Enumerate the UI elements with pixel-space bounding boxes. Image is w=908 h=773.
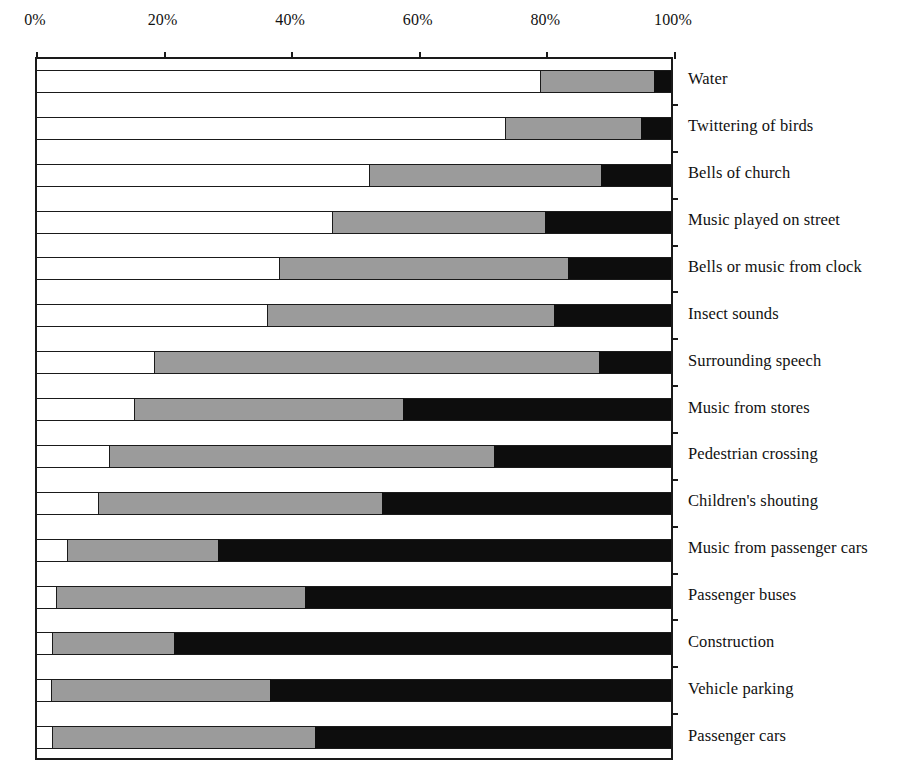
bar-segment-gray [56,586,305,609]
bar-segment-white [37,632,52,655]
y-axis-tick-mark [671,198,678,200]
y-axis-tick-mark [671,479,678,481]
bar-segment-gray [51,679,270,702]
category-label: Pedestrian crossing [688,444,818,464]
bar-segment-gray [67,539,218,562]
bar-segment-black [545,211,671,234]
bar-segment-gray [109,445,494,468]
bar-segment-gray [52,726,314,749]
bar-segment-black [382,492,671,515]
x-axis-tick-mark [546,52,548,59]
bar-row [37,304,671,327]
stacked-bar-chart: 0%20%40%60%80%100% WaterTwittering of bi… [0,0,908,773]
category-label: Children's shouting [688,491,818,511]
x-axis-tick-label-group: 0%20%40%60%80%100% [0,0,908,40]
bar-segment-gray [332,211,546,234]
bar-segment-gray [540,70,653,93]
x-axis-tick-label: 0% [24,11,46,29]
x-axis-tick-label: 100% [654,11,692,29]
bar-segment-gray [154,351,599,374]
bar-segment-white [37,211,332,234]
bar-segment-black [270,679,671,702]
bar-segment-white [37,492,98,515]
bar-segment-black [641,117,671,140]
bar-segment-black [568,257,671,280]
category-label: Passenger buses [688,585,796,605]
bar-segment-gray [279,257,568,280]
bar-segment-white [37,70,540,93]
bar-segment-black [494,445,671,468]
category-label: Twittering of birds [688,116,813,136]
x-axis-tick-mark [36,52,38,59]
x-axis-tick-label: 20% [148,11,178,29]
bar-segment-black [554,304,671,327]
bar-segment-white [37,351,154,374]
plot-area [35,57,673,760]
bar-segment-white [37,445,109,468]
category-label: Construction [688,632,774,652]
bar-segment-white [37,164,369,187]
bar-segment-black [315,726,671,749]
bar-row [37,257,671,280]
category-label: Bells of church [688,163,790,183]
x-axis-tick-mark [164,52,166,59]
bar-row [37,586,671,609]
bar-segment-black [599,351,671,374]
bar-segment-gray [369,164,601,187]
bar-segment-white [37,586,56,609]
bar-segment-black [601,164,671,187]
bar-segment-white [37,257,279,280]
bar-row [37,492,671,515]
y-axis-tick-mark [671,713,678,715]
category-label: Vehicle parking [688,679,794,699]
bar-segment-white [37,539,67,562]
category-label: Water [688,69,727,89]
bar-segment-black [403,398,671,421]
bar-row [37,351,671,374]
bar-segment-black [174,632,671,655]
bar-segment-gray [98,492,381,515]
x-axis-tick-mark [674,52,676,59]
bar-segment-white [37,398,134,421]
category-label: Surrounding speech [688,351,821,371]
y-axis-tick-mark [671,526,678,528]
bar-segment-black [218,539,671,562]
y-axis-tick-mark [671,291,678,293]
y-axis-tick-mark [671,619,678,621]
y-axis-tick-mark [671,385,678,387]
y-axis-tick-mark [671,573,678,575]
bar-segment-gray [505,117,641,140]
category-label: Bells or music from clock [688,257,862,277]
bar-segment-black [305,586,671,609]
x-axis-tick-mark [419,52,421,59]
y-axis-tick-mark [671,338,678,340]
bar-row [37,164,671,187]
bar-segment-white [37,726,52,749]
bar-row [37,117,671,140]
bar-row [37,539,671,562]
x-axis-tick-mark [291,52,293,59]
category-label: Music from stores [688,398,810,418]
bar-segment-gray [267,304,554,327]
bar-row [37,632,671,655]
category-label: Music from passenger cars [688,538,868,558]
bar-segment-white [37,117,505,140]
y-axis-tick-mark [671,432,678,434]
bar-row [37,726,671,749]
bar-row [37,445,671,468]
bar-segment-black [654,70,671,93]
bar-segment-white [37,679,51,702]
bar-segment-gray [134,398,403,421]
y-axis-tick-mark [671,245,678,247]
category-label: Passenger cars [688,726,786,746]
bar-row [37,211,671,234]
x-axis-tick-label: 40% [275,11,305,29]
y-axis-tick-mark [671,104,678,106]
bar-row [37,679,671,702]
x-axis-tick-label: 60% [403,11,433,29]
category-label: Music played on street [688,210,840,230]
bar-segment-white [37,304,267,327]
bar-segment-gray [52,632,174,655]
bar-row [37,70,671,93]
x-axis-tick-label: 80% [530,11,560,29]
